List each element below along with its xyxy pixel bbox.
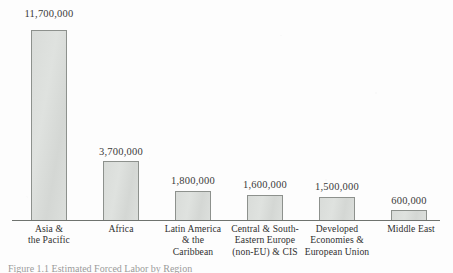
category-label-5-line-3: European Union — [297, 246, 377, 257]
category-label-6: Middle East — [373, 223, 449, 234]
bar-group-1: 11,700,000 — [13, 0, 85, 221]
bar-group-3: 1,800,000 — [157, 0, 229, 221]
category-label-3-line-2: & the — [153, 234, 233, 245]
bar-group-5: 1,500,000 — [301, 0, 373, 221]
plot-area: 11,700,000 3,700,000 1,800,000 1,600,000… — [0, 0, 453, 221]
category-label-3: Latin America & the Caribbean — [153, 223, 233, 257]
category-label-1-line-1: Asia & — [13, 223, 85, 234]
x-axis-line — [12, 220, 440, 221]
bar-3 — [175, 191, 211, 221]
category-label-row: Asia & the Pacific Africa Latin America … — [0, 223, 453, 265]
bar-5 — [319, 197, 355, 221]
category-label-1-line-2: the Pacific — [13, 234, 85, 245]
figure-caption-clipped: Figure 1.1 Estimated Forced Labor by Reg… — [0, 265, 453, 273]
bar-2 — [103, 161, 139, 221]
category-label-3-line-1: Latin America — [153, 223, 233, 234]
category-label-4: Central & South- Eastern Europe (non-EU)… — [225, 223, 305, 257]
bar-group-2: 3,700,000 — [85, 0, 157, 221]
bar-value-label-6: 600,000 — [391, 195, 427, 206]
category-label-4-line-2: Eastern Europe — [225, 234, 305, 245]
category-label-3-line-3: Caribbean — [153, 246, 233, 257]
category-label-5-line-1: Developed — [297, 223, 377, 234]
category-label-6-line-1: Middle East — [373, 223, 449, 234]
category-label-1: Asia & the Pacific — [13, 223, 85, 246]
category-label-2: Africa — [85, 223, 157, 234]
bar-group-4: 1,600,000 — [229, 0, 301, 221]
bar-value-label-1: 11,700,000 — [25, 8, 74, 19]
category-label-4-line-1: Central & South- — [225, 223, 305, 234]
bar-value-label-2: 3,700,000 — [99, 146, 143, 157]
bar-value-label-5: 1,500,000 — [315, 181, 359, 192]
bar-value-label-4: 1,600,000 — [243, 179, 287, 190]
bar-value-label-3: 1,800,000 — [171, 175, 215, 186]
category-label-5-line-2: Economies & — [297, 234, 377, 245]
figure-caption-text: Figure 1.1 Estimated Forced Labor by Reg… — [8, 265, 192, 273]
category-label-4-line-3: (non-EU) & CIS — [225, 246, 305, 257]
bar-group-6: 600,000 — [373, 0, 445, 221]
bar-chart-figure: 11,700,000 3,700,000 1,800,000 1,600,000… — [0, 0, 453, 273]
bar-4 — [247, 195, 283, 221]
category-label-2-line-1: Africa — [85, 223, 157, 234]
category-label-5: Developed Economies & European Union — [297, 223, 377, 257]
bar-1 — [31, 30, 67, 221]
